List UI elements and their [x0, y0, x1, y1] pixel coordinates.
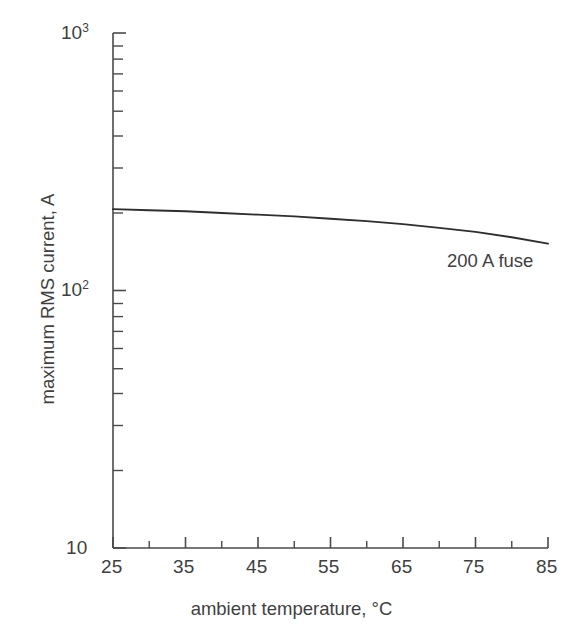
y-tick-label-1000: 103 [61, 22, 89, 44]
x-tick-label-55: 55 [318, 556, 340, 578]
x-tick-label-75: 75 [463, 556, 485, 578]
chart-figure: 103 102 10 25 35 45 55 65 75 85 maximum … [0, 0, 583, 639]
x-tick-label-65: 65 [391, 556, 413, 578]
x-major-ticks [113, 537, 548, 548]
x-axis-title: ambient temperature, °C [0, 598, 583, 620]
series-annotation-200a-fuse: 200 A fuse [447, 250, 533, 272]
x-tick-label-25: 25 [101, 556, 123, 578]
y-tick-label-10: 10 [66, 537, 88, 559]
y-tick-label-100: 102 [61, 279, 89, 301]
y-axis-title: maximum RMS current, A [37, 179, 59, 419]
x-tick-label-85: 85 [536, 556, 558, 578]
x-tick-label-45: 45 [246, 556, 268, 578]
series-line-200a-fuse [113, 209, 548, 244]
y-minor-ticks [113, 46, 123, 471]
x-tick-label-35: 35 [173, 556, 195, 578]
